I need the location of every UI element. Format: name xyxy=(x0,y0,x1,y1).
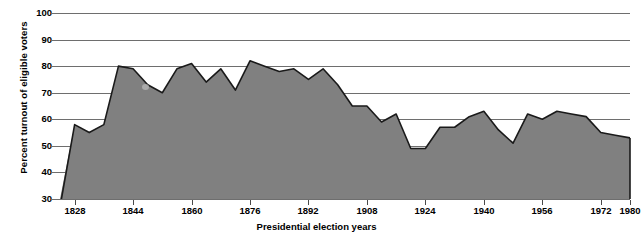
y-tick-label-60: 60 xyxy=(24,114,52,124)
x-tick-label-1956: 1956 xyxy=(531,206,552,216)
x-tick-label-1828: 1828 xyxy=(64,206,85,216)
y-tick-label-30: 30 xyxy=(24,194,52,204)
y-tick-60 xyxy=(51,119,60,120)
y-tick-label-80: 80 xyxy=(24,61,52,71)
y-tick-70 xyxy=(51,93,60,94)
y-tick-label-90: 90 xyxy=(24,35,52,45)
y-tick-label-100: 100 xyxy=(24,8,52,18)
x-tick-label-1980: 1980 xyxy=(619,206,640,216)
y-tick-label-70: 70 xyxy=(24,88,52,98)
x-axis-line xyxy=(60,199,630,200)
x-tick-label-1892: 1892 xyxy=(297,206,318,216)
x-tick-label-1860: 1860 xyxy=(181,206,202,216)
x-tick-label-1876: 1876 xyxy=(239,206,260,216)
y-tick-30 xyxy=(51,199,60,200)
y-tick-label-40: 40 xyxy=(24,167,52,177)
y-axis-title: Percent turnout of eligible voters xyxy=(18,3,29,193)
y-tick-label-50: 50 xyxy=(24,141,52,151)
x-tick-label-1844: 1844 xyxy=(122,206,143,216)
y-tick-40 xyxy=(51,172,60,173)
y-tick-80 xyxy=(51,66,60,67)
x-tick-label-1972: 1972 xyxy=(590,206,611,216)
x-tick-label-1940: 1940 xyxy=(473,206,494,216)
y-tick-50 xyxy=(51,146,60,147)
x-axis-title: Presidential election years xyxy=(0,221,633,232)
x-tick-label-1908: 1908 xyxy=(356,206,377,216)
x-tick-label-1924: 1924 xyxy=(414,206,435,216)
y-tick-100 xyxy=(51,13,60,14)
turnout-area-series xyxy=(60,0,633,240)
y-tick-90 xyxy=(51,40,60,41)
paper-smudge-icon xyxy=(142,84,149,90)
